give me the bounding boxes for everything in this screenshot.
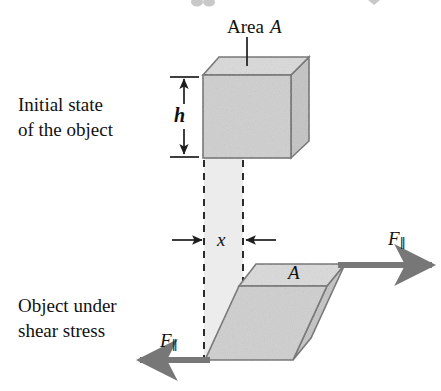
cube-front-face [203, 75, 291, 158]
force-right-symbol: F [388, 228, 400, 249]
label-area: AreaA [227, 16, 282, 38]
cropped-text-above [191, 0, 380, 7]
shear-stress-figure: Initial state of the object Object under… [0, 0, 441, 391]
caption-initial-state: Initial state of the object [18, 92, 113, 142]
label-area-word: Area [227, 16, 264, 37]
label-area-symbol: A [270, 16, 282, 37]
cube-top-face [203, 57, 309, 75]
label-displacement: x [217, 229, 225, 251]
force-right-subscript: ∥ [400, 236, 406, 251]
force-left-subscript: ∥ [172, 338, 178, 353]
label-force-left: F∥ [160, 330, 178, 354]
caption-shear-stress: Object under shear stress [18, 293, 117, 343]
initial-cube [203, 57, 309, 158]
label-height: h [174, 104, 185, 127]
force-left-symbol: F [160, 330, 172, 351]
label-force-right: F∥ [388, 228, 406, 252]
label-area-sheared: A [288, 262, 300, 284]
